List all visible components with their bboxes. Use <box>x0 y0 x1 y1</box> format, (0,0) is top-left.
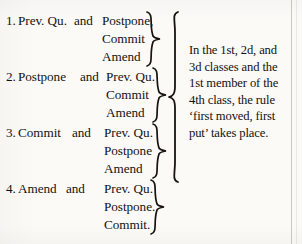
note-line-2: 3d classes and the <box>189 59 289 76</box>
motion-group-2: 2. Postpone and Prev. Qu. Commit Amend <box>0 68 176 122</box>
motion-group-1-number: 1. <box>6 12 16 30</box>
motion-group-4-number: 4. <box>6 180 16 198</box>
motion-group-3-conjunction: and <box>72 124 91 142</box>
motion-group-1-row-1: 1. Prev. Qu. and Postpone, <box>0 12 176 30</box>
motion-group-3-lead-motion: Commit <box>18 124 61 142</box>
motion-group-1-option-3: Amend <box>102 48 141 66</box>
motion-group-2-option-1: Prev. Qu. <box>106 68 155 86</box>
motion-groups-column: 1. Prev. Qu. and Postpone, Commit Amend … <box>0 0 176 244</box>
motion-group-2-row-2: Commit <box>0 86 176 104</box>
motion-group-2-conjunction: and <box>80 68 99 86</box>
motion-group-3-option-3: Amend <box>104 160 143 178</box>
note-line-3: 1st member of the <box>189 75 289 92</box>
motion-group-1-row-3: Amend <box>0 48 176 66</box>
note-line-6: put’ takes place. <box>189 125 289 142</box>
motion-group-2-option-2: Commit <box>106 86 149 104</box>
motion-group-3-option-2: Postpone <box>104 142 152 160</box>
motion-group-3-row-2: Postpone <box>0 142 176 160</box>
motion-group-3-row-1: 3. Commit and Prev. Qu. <box>0 124 176 142</box>
motion-group-3: 3. Commit and Prev. Qu. Postpone Amend <box>0 124 176 178</box>
motion-group-1-lead-motion: Prev. Qu. <box>18 12 67 30</box>
motion-group-4-option-3: Commit. <box>104 216 150 234</box>
note-paragraph: In the 1st, 2d, and 3d classes and the 1… <box>189 42 289 142</box>
motion-group-1-option-1: Postpone, <box>102 12 153 30</box>
motion-group-4-option-2: Postpone. <box>104 198 155 216</box>
scan-artifact-line-secondary <box>296 0 297 244</box>
motion-group-4-row-1: 4. Amend and Prev. Qu. <box>0 180 176 198</box>
note-line-1: In the 1st, 2d, and <box>189 42 289 59</box>
motion-group-4-lead-motion: Amend <box>18 180 57 198</box>
motion-group-1-option-2: Commit <box>102 30 145 48</box>
motion-group-1-conjunction: and <box>74 12 93 30</box>
motion-group-3-number: 3. <box>6 124 16 142</box>
motion-group-2-number: 2. <box>6 68 16 86</box>
motion-group-2-lead-motion: Postpone <box>18 68 66 86</box>
motion-group-4-option-1: Prev. Qu. <box>104 180 153 198</box>
motion-group-4: 4. Amend and Prev. Qu. Postpone. Commit. <box>0 180 176 234</box>
motion-group-1: 1. Prev. Qu. and Postpone, Commit Amend <box>0 12 176 66</box>
note-line-5: ‘first moved, first <box>189 108 289 125</box>
motion-group-1-row-2: Commit <box>0 30 176 48</box>
note-line-4: 4th class, the rule <box>189 92 289 109</box>
motion-group-3-row-3: Amend <box>0 160 176 178</box>
motion-group-2-row-1: 2. Postpone and Prev. Qu. <box>0 68 176 86</box>
motion-group-4-conjunction: and <box>66 180 85 198</box>
motion-group-3-option-1: Prev. Qu. <box>104 124 153 142</box>
motion-group-2-option-3: Amend <box>106 104 145 122</box>
motion-group-4-row-3: Commit. <box>0 216 176 234</box>
motion-group-2-row-3: Amend <box>0 104 176 122</box>
scan-artifact-line <box>291 0 292 244</box>
motion-group-4-row-2: Postpone. <box>0 198 176 216</box>
